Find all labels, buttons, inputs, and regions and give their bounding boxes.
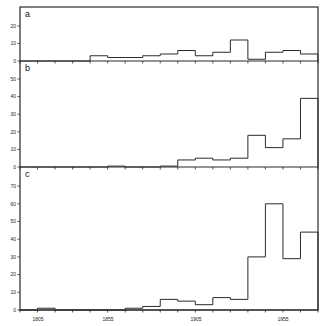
histogram-bars <box>20 98 318 167</box>
panel-letter: c <box>25 169 30 179</box>
y-tick-label: 70 <box>10 183 16 189</box>
y-tick-label: 60 <box>10 201 16 207</box>
y-tick-label: 40 <box>10 93 16 99</box>
y-tick-label: 0 <box>13 58 16 64</box>
y-tick-label: 20 <box>10 129 16 135</box>
y-tick-label: 50 <box>10 76 16 82</box>
y-tick-label: 50 <box>10 218 16 224</box>
y-tick-label: 10 <box>10 40 16 46</box>
x-tick-label: 1905 <box>190 316 201 322</box>
y-tick-label: 20 <box>10 271 16 277</box>
y-tick-label: 30 <box>10 254 16 260</box>
histogram-figure: 01020a01020304050b010203040506070c180518… <box>0 0 325 326</box>
panel-letter: b <box>25 63 30 73</box>
y-tick-label: 30 <box>10 111 16 117</box>
panel-b: 01020304050b <box>10 63 318 170</box>
y-tick-label: 0 <box>13 164 16 170</box>
y-tick-label: 40 <box>10 236 16 242</box>
panel-a: 01020a <box>10 9 318 64</box>
y-tick-label: 10 <box>10 146 16 152</box>
stacked-histogram-chart: 01020a01020304050b010203040506070c180518… <box>0 0 325 326</box>
histogram-bars <box>20 204 318 310</box>
y-tick-label: 20 <box>10 23 16 29</box>
x-tick-label: 1805 <box>32 316 43 322</box>
y-tick-label: 10 <box>10 289 16 295</box>
histogram-bars <box>20 40 318 61</box>
panel-c: 010203040506070c <box>10 169 318 313</box>
y-tick-label: 0 <box>13 307 16 313</box>
x-tick-label: 1855 <box>102 316 113 322</box>
x-tick-label: 1955 <box>277 316 288 322</box>
panel-letter: a <box>25 9 30 19</box>
